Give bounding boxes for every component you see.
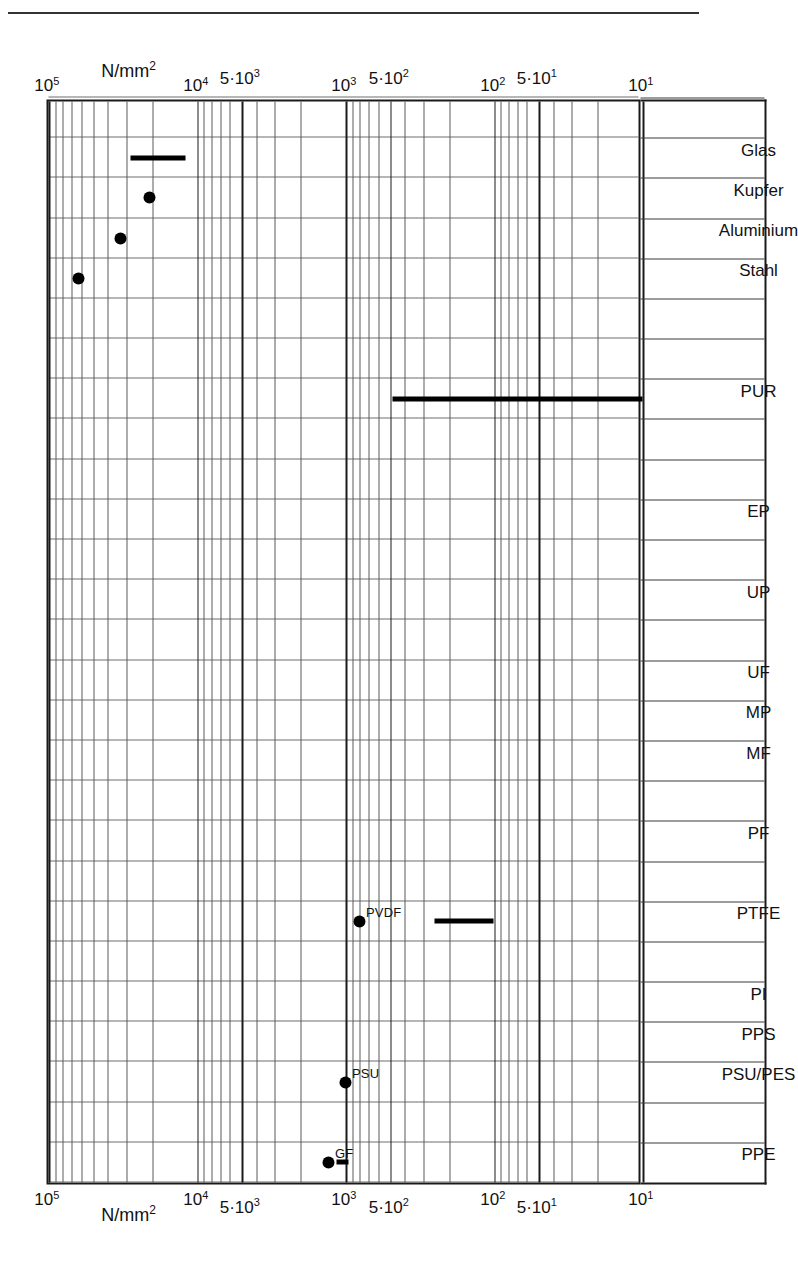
- category-gridline: [48, 900, 638, 901]
- data-point-label: PSU: [352, 1067, 379, 1080]
- rotated-chart-canvas: GFPSUPVDF PPEPSU/PESPPSPIPTFEPFMFMPUFUPE…: [46, 99, 641, 1185]
- value-gridline-minor: [449, 102, 450, 1183]
- data-point: [322, 1156, 334, 1168]
- category-cell-empty: [640, 620, 764, 660]
- category-gridline: [48, 619, 638, 620]
- category-gridline: [48, 1182, 638, 1183]
- value-gridline-minor: [571, 102, 572, 1183]
- axis-tick-label: 101: [628, 1190, 653, 1209]
- value-gridline-major: [345, 102, 347, 1183]
- category-gridline: [48, 378, 638, 379]
- axis-tick-label: 5·102: [368, 1197, 408, 1216]
- category-label: PTFE: [736, 905, 779, 922]
- value-gridline-minor: [62, 102, 63, 1183]
- data-point-label: GF: [335, 1147, 353, 1160]
- value-gridline-minor: [274, 102, 275, 1183]
- data-point: [72, 272, 84, 284]
- category-cell-ppe: PPE: [640, 1142, 764, 1182]
- value-gridline-minor: [508, 102, 509, 1183]
- axis-tick-label: 105: [34, 76, 59, 95]
- value-gridline-minor: [526, 102, 527, 1183]
- category-gridline: [48, 257, 638, 258]
- category-label: Aluminium: [718, 222, 797, 239]
- category-label: PPS: [741, 1025, 775, 1042]
- category-gridline: [48, 820, 638, 821]
- category-cell-empty: [640, 419, 764, 459]
- axis-tick-label: 101: [628, 76, 653, 95]
- category-cell-aluminium: Aluminium: [640, 218, 764, 258]
- category-cell-glas: Glas: [640, 138, 764, 178]
- value-gridline-major: [390, 102, 392, 1183]
- value-gridline-minor: [107, 102, 108, 1183]
- category-gridline: [48, 780, 638, 781]
- value-gridline-minor: [211, 102, 212, 1183]
- axis-tick-label: 105: [34, 1190, 59, 1209]
- category-cell-psu-pes: PSU/PES: [640, 1062, 764, 1102]
- value-gridline-minor: [300, 102, 301, 1183]
- data-point-label: PVDF: [366, 906, 401, 919]
- category-gridline: [48, 458, 638, 459]
- value-gridline-minor: [597, 102, 598, 1183]
- category-gridline: [48, 1141, 638, 1142]
- category-cell-up: UP: [640, 580, 764, 620]
- category-label: Kupfer: [733, 181, 783, 198]
- category-gridline: [48, 137, 638, 138]
- category-gridline: [48, 860, 638, 861]
- category-gridline: [48, 1101, 638, 1102]
- value-gridline-major: [538, 102, 540, 1183]
- range-bar: [392, 396, 642, 401]
- category-gridline: [48, 298, 638, 299]
- value-gridline-minor: [500, 102, 501, 1183]
- category-cell-kupfer: Kupfer: [640, 178, 764, 218]
- category-gridline: [48, 941, 638, 942]
- value-gridline-minor: [359, 102, 360, 1183]
- category-cell-empty: [640, 781, 764, 821]
- value-gridline-minor: [71, 102, 72, 1183]
- category-label: UP: [746, 583, 770, 600]
- data-point: [114, 232, 126, 244]
- value-gridline-minor: [220, 102, 221, 1183]
- category-cell-pur: PUR: [640, 379, 764, 419]
- category-label: UF: [747, 664, 770, 681]
- category-label: MF: [746, 744, 771, 761]
- category-gridline: [48, 338, 638, 339]
- category-cell-empty: [640, 339, 764, 379]
- axis-tick-label: 104: [182, 76, 207, 95]
- value-gridline-minor: [404, 102, 405, 1183]
- value-gridline-minor: [55, 102, 56, 1183]
- value-axis-ticks-left: 1015·1011025·1021035·103104105N/mm2: [46, 1185, 640, 1231]
- category-gridline: [48, 740, 638, 741]
- value-gridline-minor: [126, 102, 127, 1183]
- data-point: [339, 1076, 351, 1088]
- value-gridline-minor: [517, 102, 518, 1183]
- category-label: PF: [747, 824, 769, 841]
- category-label: Stahl: [739, 262, 778, 279]
- category-gridline: [48, 539, 638, 540]
- category-gridline: [48, 579, 638, 580]
- value-gridline-major: [241, 102, 243, 1183]
- category-cell-empty: [640, 459, 764, 499]
- value-gridline-minor: [256, 102, 257, 1183]
- category-label: PI: [750, 985, 766, 1002]
- category-gridline: [48, 418, 638, 419]
- value-gridline-major: [494, 102, 496, 1183]
- axis-tick-label: 104: [182, 1190, 207, 1209]
- axis-tick-label: 5·101: [516, 68, 556, 87]
- value-gridline-minor: [378, 102, 379, 1183]
- category-cell-empty: [640, 98, 764, 138]
- value-gridline-minor: [81, 102, 82, 1183]
- category-label: Glas: [741, 141, 776, 158]
- category-cell-mf: MF: [640, 740, 764, 780]
- category-gridline: [48, 699, 638, 700]
- category-label: PSU/PES: [721, 1066, 795, 1083]
- category-cell-empty: [640, 941, 764, 981]
- category-cell-ptfe: PTFE: [640, 901, 764, 941]
- axis-unit-label: N/mm2: [101, 1204, 156, 1224]
- value-gridline-minor: [352, 102, 353, 1183]
- value-axis-ticks-right: 1015·1011025·1021035·103104105N/mm2: [46, 54, 640, 100]
- category-cell-empty: [640, 540, 764, 580]
- category-gridline: [48, 1021, 638, 1022]
- axis-tick-label: 5·103: [219, 1197, 259, 1216]
- value-gridline-minor: [423, 102, 424, 1183]
- category-gridline: [48, 1061, 638, 1062]
